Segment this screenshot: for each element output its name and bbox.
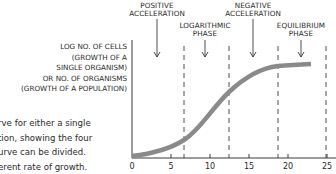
annotation-arrows xyxy=(154,19,304,57)
x-tick-label: 10 xyxy=(205,162,215,171)
x-tick-label: 20 xyxy=(283,162,293,171)
arrow-down-icon xyxy=(298,40,304,57)
x-tick-label: 5 xyxy=(168,162,173,171)
arrow-down-icon xyxy=(202,40,208,57)
arrow-down-icon xyxy=(250,19,256,57)
growth-chart xyxy=(0,0,336,174)
x-tick-label: 0 xyxy=(129,162,134,171)
arrow-down-icon xyxy=(154,19,160,57)
x-ticks xyxy=(171,154,327,158)
x-tick-label: 25 xyxy=(322,162,332,171)
growth-curve xyxy=(132,64,311,156)
x-tick-label: 15 xyxy=(244,162,254,171)
